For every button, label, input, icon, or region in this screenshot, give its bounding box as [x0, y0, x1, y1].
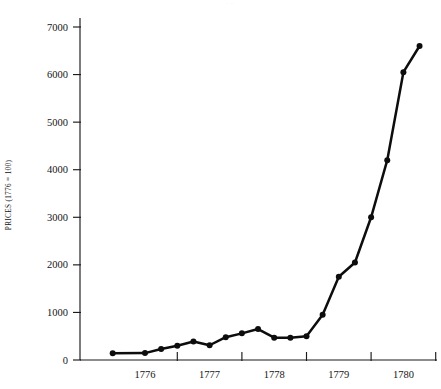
x-tick-label: 1780	[393, 369, 414, 380]
data-point-marker	[287, 335, 293, 341]
data-point-marker	[368, 214, 374, 220]
data-point-marker	[336, 274, 342, 280]
data-series-group	[110, 43, 423, 356]
x-tick-label-group: 17761777177817791780	[135, 369, 414, 380]
data-point-marker	[400, 69, 406, 75]
y-tick-label: 3000	[47, 212, 68, 223]
data-point-marker	[239, 330, 245, 336]
data-point-marker	[223, 334, 229, 340]
axis-lines	[80, 18, 437, 360]
chart-plot-area: 01000200030004000500060007000 1776177717…	[0, 0, 441, 389]
data-point-marker	[110, 350, 116, 356]
data-point-marker	[142, 350, 148, 356]
data-point-marker	[158, 346, 164, 352]
data-point-marker	[384, 157, 390, 163]
y-tick-label: 1000	[47, 307, 68, 318]
data-point-marker	[320, 312, 326, 318]
y-tick-label: 5000	[47, 117, 68, 128]
data-point-marker	[190, 338, 196, 344]
data-point-marker	[417, 43, 423, 49]
y-tick-label-group: 01000200030004000500060007000	[47, 22, 68, 366]
price-series-line	[113, 46, 420, 353]
y-tick-label: 4000	[47, 164, 68, 175]
data-point-marker	[255, 326, 261, 332]
y-tick-label: 2000	[47, 259, 68, 270]
x-tick-label: 1779	[328, 369, 349, 380]
y-tick-label: 6000	[47, 69, 68, 80]
x-tick-label: 1778	[264, 369, 285, 380]
x-tick-label: 1777	[199, 369, 220, 380]
x-tick-label: 1776	[135, 369, 156, 380]
data-point-marker	[271, 335, 277, 341]
y-tick-label: 7000	[47, 22, 68, 33]
chart-figure: · ·· PRICES (1776 = 100) 010002000300040…	[0, 0, 441, 389]
y-tick-label: 0	[63, 355, 68, 366]
data-point-marker	[352, 259, 358, 265]
data-point-marker	[207, 342, 213, 348]
data-point-marker	[174, 343, 180, 349]
data-point-marker	[304, 333, 310, 339]
